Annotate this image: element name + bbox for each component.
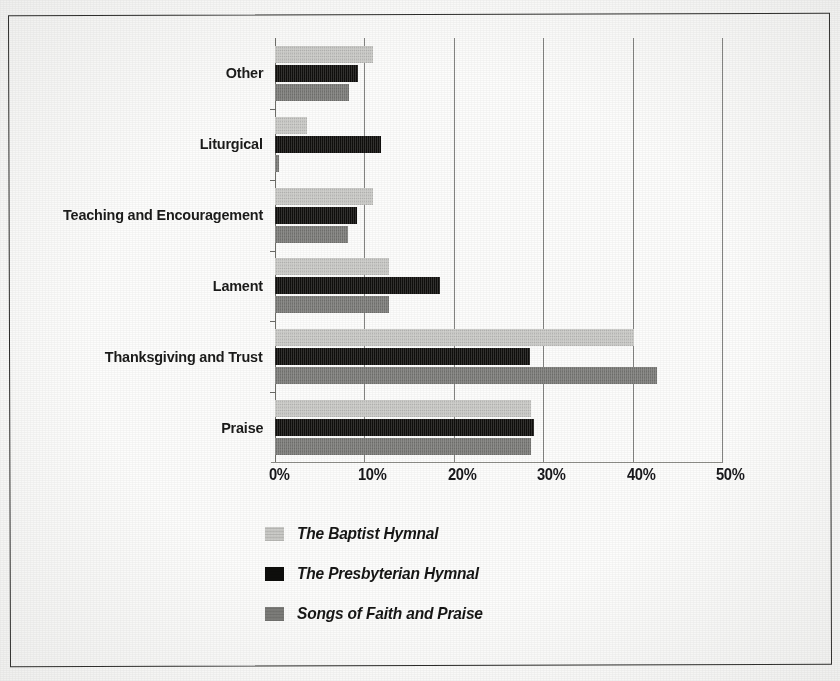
legend-swatch-icon — [265, 527, 284, 541]
bar — [275, 46, 373, 63]
y-axis-category-label: Praise — [221, 419, 263, 437]
y-axis-tick — [270, 321, 276, 322]
x-axis-line — [271, 462, 722, 463]
x-tick-label: 40% — [627, 466, 655, 484]
bar — [275, 277, 440, 294]
bar — [275, 136, 381, 153]
scanned-page: OtherLiturgicalTeaching and Encouragemen… — [0, 0, 840, 681]
legend-item: Songs of Faith and Praise — [265, 604, 625, 623]
bar — [275, 117, 307, 134]
bar — [275, 226, 348, 243]
x-tick-label: 30% — [537, 466, 565, 484]
x-tick-label: 10% — [358, 466, 386, 484]
y-axis-category-label: Liturgical — [200, 135, 263, 153]
gridline-40 — [633, 38, 634, 463]
bar — [275, 367, 657, 384]
legend-swatch-icon — [265, 567, 284, 581]
chart-legend: The Baptist HymnalThe Presbyterian Hymna… — [265, 524, 625, 644]
bar — [275, 188, 373, 205]
legend-label: The Presbyterian Hymnal — [297, 564, 479, 583]
legend-item: The Presbyterian Hymnal — [265, 564, 625, 583]
legend-label: Songs of Faith and Praise — [297, 604, 483, 623]
x-tick-label: 0% — [269, 466, 290, 484]
y-axis-category-label: Teaching and Encouragement — [63, 206, 263, 224]
bar — [275, 296, 389, 313]
bar — [275, 438, 531, 455]
y-axis-category-label: Other — [225, 64, 263, 82]
legend-swatch-icon — [265, 607, 284, 621]
bar — [275, 155, 279, 172]
bar — [275, 348, 530, 365]
y-axis-category-label: Thanksgiving and Trust — [105, 348, 263, 366]
legend-item: The Baptist Hymnal — [265, 524, 625, 543]
bar — [275, 400, 531, 417]
x-tick-label: 50% — [716, 466, 744, 484]
y-axis-tick — [270, 392, 276, 393]
legend-label: The Baptist Hymnal — [297, 524, 438, 543]
bar — [275, 329, 634, 346]
bar — [275, 419, 534, 436]
bar — [275, 207, 357, 224]
gridline-30 — [543, 38, 544, 463]
bar — [275, 258, 389, 275]
gridline-50 — [722, 38, 723, 463]
y-axis-tick — [270, 251, 276, 252]
y-axis-tick — [270, 180, 276, 181]
x-tick-label: 20% — [448, 466, 476, 484]
y-axis-tick — [270, 109, 276, 110]
bar — [275, 65, 358, 82]
plot-area — [275, 38, 722, 463]
y-axis-category-label: Lament — [213, 277, 263, 295]
bar — [275, 84, 349, 101]
